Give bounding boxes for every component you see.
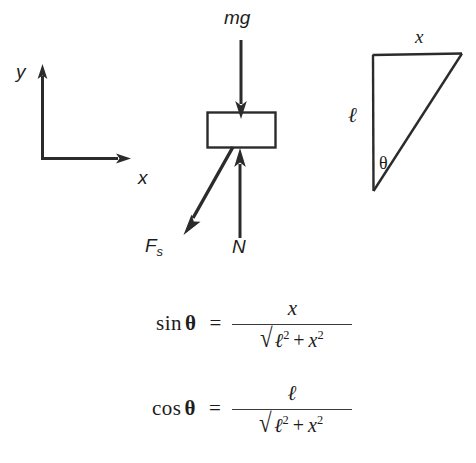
- normal-force-vector: [234, 148, 246, 238]
- sine-identity-equation: sinθ = x √ ℓ2+x2: [156, 296, 352, 352]
- spring-force-shaft: [193, 147, 233, 218]
- sine-function-name: sin: [156, 311, 182, 335]
- square-root-icon: √: [260, 411, 273, 437]
- cosine-radicand-term2-exponent: 2: [317, 413, 323, 427]
- sine-identity-equals: =: [196, 311, 232, 336]
- sine-identity-radicand: ℓ2+x2: [274, 326, 326, 352]
- cosine-radicand-term1: ℓ: [274, 414, 282, 436]
- cosine-identity-angle: θ: [182, 396, 196, 420]
- triangle-angle-label: θ: [379, 154, 388, 172]
- spring-force-arrowhead: [184, 215, 201, 236]
- sine-identity-lhs: sinθ: [156, 311, 196, 336]
- sine-identity-numerator: x: [232, 296, 352, 324]
- cosine-identity-fraction: ℓ √ ℓ2+x2: [232, 381, 352, 437]
- spring-force-vector: [184, 147, 234, 235]
- sine-radicand-term2: x: [309, 329, 318, 351]
- cosine-identity-radical: √ ℓ2+x2: [258, 411, 325, 437]
- sine-radicand-term2-exponent: 2: [318, 328, 324, 342]
- sine-identity-denominator: √ ℓ2+x2: [232, 325, 352, 352]
- y-axis-label: y: [16, 62, 26, 81]
- triangle-vertical-side-label: ℓ: [348, 105, 357, 126]
- triangle-top-side: [373, 54, 463, 56]
- cosine-radicand-term1-exponent: 2: [283, 413, 289, 427]
- figure-canvas: y x mg N Fs x ℓ θ sinθ = x √ ℓ2+x2 cosθ …: [0, 0, 476, 463]
- x-axis-arrowhead: [116, 154, 131, 164]
- normal-force-label: N: [232, 237, 246, 256]
- square-root-icon: √: [260, 326, 273, 352]
- cosine-identity-denominator: √ ℓ2+x2: [232, 410, 352, 437]
- spring-force-label-base: F: [145, 235, 157, 256]
- cosine-identity-lhs: cosθ: [152, 396, 196, 421]
- triangle-vertical-side: [373, 55, 374, 191]
- weight-vector-label: mg: [224, 8, 250, 27]
- sine-radicand-operator: +: [289, 329, 308, 351]
- weight-vector: [235, 40, 247, 119]
- coordinate-axes: [38, 64, 131, 163]
- cosine-function-name: cos: [152, 396, 182, 420]
- cosine-identity-equals: =: [196, 396, 232, 421]
- x-axis-label: x: [138, 168, 148, 187]
- sine-identity-angle: θ: [182, 311, 196, 335]
- spring-force-label: Fs: [145, 236, 163, 258]
- cosine-identity-equation: cosθ = ℓ √ ℓ2+x2: [152, 381, 352, 437]
- cosine-identity-radicand: ℓ2+x2: [273, 411, 325, 437]
- cosine-identity-numerator: ℓ: [232, 381, 352, 409]
- spring-force-label-subscript: s: [157, 244, 164, 259]
- sine-identity-radical: √ ℓ2+x2: [259, 326, 326, 352]
- sine-radicand-term1: ℓ: [275, 329, 283, 351]
- cosine-radicand-term2: x: [308, 414, 317, 436]
- sine-identity-fraction: x √ ℓ2+x2: [232, 296, 352, 352]
- triangle-horizontal-side-label: x: [415, 27, 423, 46]
- cosine-radicand-operator: +: [289, 414, 308, 436]
- mass-block: [208, 113, 276, 148]
